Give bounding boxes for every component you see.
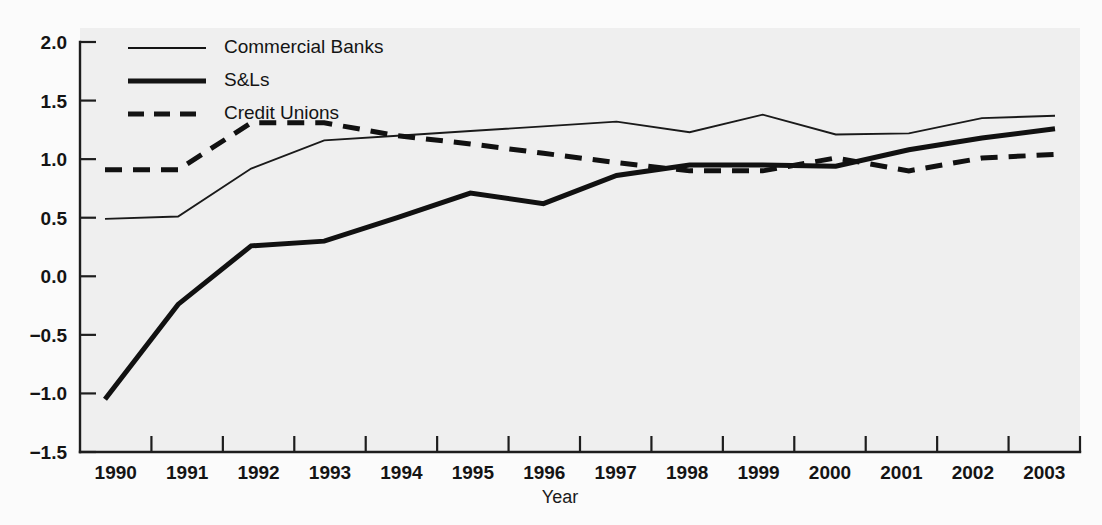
- x-axis-tick-label: 2002: [952, 462, 994, 483]
- chart-figure: 2.01.51.00.50.0−0.5−1.0−1.5 199019911992…: [0, 0, 1102, 525]
- legend-label: Credit Unions: [224, 102, 339, 123]
- x-axis-tick-label: 2001: [880, 462, 923, 483]
- y-axis-tick-label: −1.5: [29, 442, 67, 463]
- y-axis-tick-label: −0.5: [29, 325, 67, 346]
- x-axis-tick-label: 1992: [237, 462, 279, 483]
- y-axis-tick-label: 0.5: [41, 208, 68, 229]
- x-axis-tick-label: 1998: [666, 462, 708, 483]
- x-axis-tick-label: 1996: [523, 462, 565, 483]
- y-axis-tick-label: 2.0: [41, 32, 67, 53]
- x-axis-tick-label: 1997: [595, 462, 637, 483]
- x-axis-tick-labels: 1990199119921993199419951996199719981999…: [95, 462, 1066, 483]
- y-axis-tick-labels: 2.01.51.00.50.0−0.5−1.0−1.5: [29, 32, 67, 463]
- line-chart: 2.01.51.00.50.0−0.5−1.0−1.5 199019911992…: [0, 0, 1102, 525]
- x-axis-title: Year: [542, 487, 578, 507]
- y-axis-tick-label: 1.0: [41, 149, 67, 170]
- x-axis-tick-label: 2000: [809, 462, 851, 483]
- x-axis-tick-label: 1991: [166, 462, 209, 483]
- y-axis-tick-label: 1.5: [41, 91, 68, 112]
- x-axis-tick-label: 2003: [1023, 462, 1065, 483]
- plot-background: [80, 28, 1080, 452]
- y-axis-tick-label: 0.0: [41, 266, 67, 287]
- x-axis-tick-label: 1995: [452, 462, 495, 483]
- legend-label: S&Ls: [224, 69, 269, 90]
- x-axis-tick-label: 1990: [95, 462, 137, 483]
- x-axis-tick-label: 1994: [380, 462, 423, 483]
- legend-label: Commercial Banks: [224, 36, 383, 57]
- x-axis-tick-label: 1993: [309, 462, 351, 483]
- y-axis-tick-label: −1.0: [29, 383, 67, 404]
- x-axis-tick-label: 1999: [737, 462, 779, 483]
